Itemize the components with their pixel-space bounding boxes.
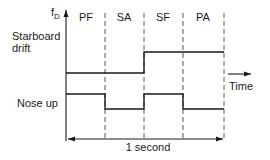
phase-label-sa: SA [117,11,132,23]
duration-label: 1 second [126,141,171,153]
signal-label-drift: drift [12,42,30,54]
nose-up-waveform [66,94,224,109]
starboard-drift-waveform [66,52,224,73]
time-label: Time [229,80,253,92]
phase-label-sf: SF [156,11,170,23]
signal-label-starboard: Starboard [12,30,60,42]
signal-label-nose-up: Nose up [17,97,58,109]
phase-label-pf: PF [79,11,93,23]
doppler-timing-diagram: fD PF SA SF PA Starboard drift Nose up T… [0,0,270,160]
phase-label-pa: PA [196,11,211,23]
y-axis-label: fD [51,6,60,21]
